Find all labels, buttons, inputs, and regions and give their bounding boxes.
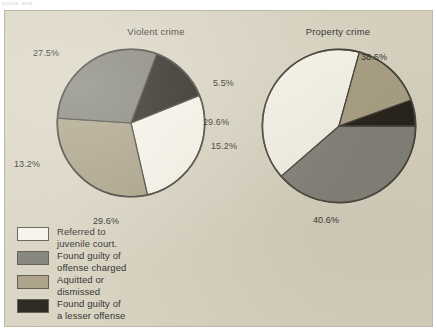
legend-item: Referred to juvenile court. bbox=[17, 226, 227, 249]
swatch-referred-to-juvenile-court bbox=[17, 227, 49, 241]
swatch-aquitted-or-dismissed bbox=[17, 275, 49, 289]
pie-label-violent-referred: 27.5% bbox=[33, 48, 59, 58]
pie-svg-violent-crime bbox=[55, 47, 207, 199]
pie-label-violent-guilty-charged: 29.6% bbox=[93, 216, 119, 226]
pie-label-property-guilty-lesser: 5.5% bbox=[213, 78, 234, 88]
pie-chart-property-crime bbox=[260, 47, 418, 205]
pie-label-violent-guilty-lesser: 13.2% bbox=[14, 159, 40, 169]
pie-svg-property-crime bbox=[260, 47, 418, 205]
swatch-found-guilty-lesser-offense bbox=[17, 299, 49, 313]
swatch-found-guilty-offense-charged bbox=[17, 251, 49, 265]
legend-item-label: Found guilty of a lesser offense bbox=[57, 298, 126, 321]
pie-label-property-aquitted: 15.2% bbox=[211, 141, 237, 151]
page-bleed-text: police and bbox=[2, 0, 122, 7]
pie-label-violent-aquitted: 29.6% bbox=[203, 117, 229, 127]
disposition-legend: Referred to juvenile court. Found guilty… bbox=[17, 226, 227, 322]
pie-chart-violent-crime bbox=[55, 47, 207, 199]
legend-item: Found guilty of a lesser offense bbox=[17, 298, 227, 321]
legend-item: Found guilty of offense charged bbox=[17, 250, 227, 273]
chart-title-property-crime: Property crime bbox=[283, 26, 393, 37]
pie-label-property-guilty-charged: 38.6% bbox=[361, 52, 387, 62]
chart-title-violent-crime: Violent crime bbox=[101, 26, 211, 37]
legend-item-label: Aquitted or dismissed bbox=[57, 274, 104, 297]
chart-plate: Violent crime Property crime 27.5% 29.6%… bbox=[4, 10, 433, 327]
legend-item-label: Found guilty of offense charged bbox=[57, 250, 126, 273]
legend-item: Aquitted or dismissed bbox=[17, 274, 227, 297]
figure-plate-container: police and Violent crime Property crime … bbox=[0, 0, 437, 331]
legend-item-label: Referred to juvenile court. bbox=[57, 226, 117, 249]
pie-label-property-referred: 40.6% bbox=[313, 215, 339, 225]
